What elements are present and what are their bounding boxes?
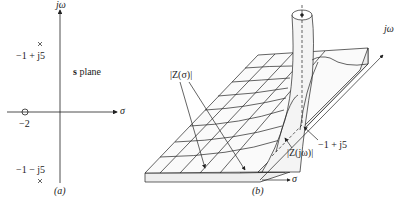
z-jw-label: |Z(jω)| bbox=[287, 148, 313, 158]
diagram-canvas bbox=[0, 0, 399, 206]
s-plane-label: s plane bbox=[73, 67, 101, 77]
pole-lower-label: −1 − j5 bbox=[16, 165, 45, 175]
pole-upper-marker-icon bbox=[38, 42, 42, 46]
panel-b-caption: (b) bbox=[252, 186, 264, 196]
panel-a-jw-label: jω bbox=[56, 0, 66, 10]
panel-b-surface bbox=[145, 5, 383, 182]
z-sigma-label: |Z(σ)| bbox=[170, 70, 192, 80]
panel-b-jw-label: jω bbox=[384, 24, 394, 34]
panel-a-sigma-label: σ bbox=[120, 106, 125, 116]
panel-b-pole-label: −1 + j5 bbox=[318, 140, 347, 150]
zero-label: −2 bbox=[19, 119, 30, 129]
panel-a-axes bbox=[7, 10, 117, 183]
pole-lower-marker-icon bbox=[38, 179, 42, 183]
panel-b-sigma-label: σ bbox=[292, 174, 297, 184]
s-plane-rest: plane bbox=[77, 66, 101, 77]
pole-upper-label: −1 + j5 bbox=[16, 51, 45, 61]
panel-a-caption: (a) bbox=[54, 186, 66, 196]
